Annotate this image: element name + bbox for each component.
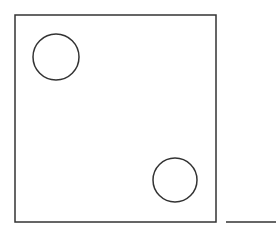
circle-top-left	[33, 34, 79, 80]
diagram-canvas	[0, 0, 276, 236]
circle-bottom-right	[153, 158, 197, 202]
square-outline	[15, 15, 216, 222]
